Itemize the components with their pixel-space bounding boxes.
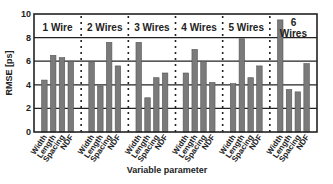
x-axis-title: Variable parameter bbox=[127, 165, 208, 175]
bar bbox=[106, 42, 112, 132]
bars bbox=[42, 20, 310, 132]
bar bbox=[98, 86, 104, 132]
bar bbox=[304, 64, 310, 132]
bar bbox=[192, 49, 198, 132]
plot-frame bbox=[34, 14, 317, 132]
y-tick-label: 0 bbox=[26, 127, 31, 137]
bar bbox=[286, 90, 292, 132]
group-label: 5 Wires bbox=[229, 22, 265, 33]
y-axis-title: RMSE [ps] bbox=[4, 50, 14, 95]
bar bbox=[50, 55, 56, 132]
bar bbox=[59, 58, 65, 132]
group-label: 3 Wires bbox=[134, 22, 170, 33]
group-label: 6 bbox=[291, 17, 297, 28]
y-tick-label: 4 bbox=[26, 80, 31, 90]
group-label: 1 Wire bbox=[43, 22, 73, 33]
bar bbox=[210, 82, 216, 132]
group-label: 4 Wires bbox=[181, 22, 217, 33]
bar bbox=[89, 62, 95, 132]
bar bbox=[248, 78, 254, 132]
y-tick-label: 10 bbox=[21, 9, 31, 19]
bar bbox=[145, 98, 151, 132]
y-tick-label: 2 bbox=[26, 103, 31, 113]
bar bbox=[257, 66, 263, 132]
bar bbox=[136, 42, 142, 132]
bar bbox=[183, 73, 189, 132]
bar bbox=[154, 78, 160, 132]
bar bbox=[115, 66, 121, 132]
y-axis-ticks: 0246810 bbox=[21, 9, 31, 137]
group-label: Wires bbox=[280, 28, 308, 39]
bar bbox=[68, 61, 74, 132]
gridlines bbox=[34, 38, 317, 109]
rmse-bar-chart: 1 Wire2 Wires3 Wires4 Wires5 Wires6Wires… bbox=[0, 0, 333, 184]
bar bbox=[201, 61, 207, 132]
y-tick-label: 8 bbox=[26, 33, 31, 43]
bar bbox=[230, 84, 236, 132]
bar bbox=[239, 39, 245, 132]
bar bbox=[42, 80, 48, 132]
group-label: 2 Wires bbox=[87, 22, 123, 33]
x-axis-category-labels: WidthLengthSpacingNDFWidthLengthSpacingN… bbox=[29, 133, 311, 164]
y-tick-label: 6 bbox=[26, 56, 31, 66]
bar bbox=[162, 73, 168, 132]
bar bbox=[295, 92, 301, 132]
